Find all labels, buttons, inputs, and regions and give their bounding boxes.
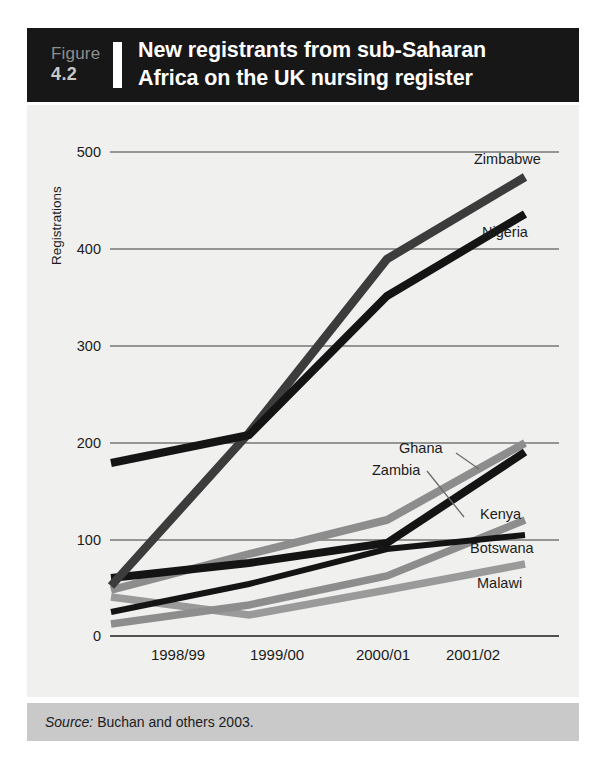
- figure-number: 4.2: [51, 64, 109, 85]
- source-label: Source:: [45, 714, 93, 730]
- figure-container: Figure 4.2 New registrants from sub-Saha…: [0, 0, 606, 777]
- figure-title: New registrants from sub-Saharan Africa …: [138, 37, 486, 92]
- series-label-nigeria: Nigeria: [482, 224, 529, 240]
- series-label-malawi: Malawi: [477, 575, 522, 591]
- series-label-kenya: Kenya: [480, 506, 522, 522]
- y-tick-400: 400: [77, 241, 101, 257]
- y-axis-title: Registrations: [49, 186, 64, 265]
- y-tick-200: 200: [77, 435, 101, 451]
- source-note: Source: Buchan and others 2003.: [27, 714, 254, 730]
- figure-label-word: Figure: [51, 44, 109, 64]
- source-band: Source: Buchan and others 2003.: [27, 703, 579, 741]
- line-chart: Registrations 500 400 300 200 100 0: [27, 105, 579, 697]
- x-tick-labels: 1998/99 1999/00 2000/01 2001/02: [151, 646, 500, 663]
- figure-title-bar: Figure 4.2 New registrants from sub-Saha…: [27, 28, 579, 102]
- series-line-nigeria: [111, 214, 525, 463]
- title-divider-bar: [113, 42, 122, 88]
- source-citation: Buchan and others 2003.: [93, 714, 253, 730]
- series-label-zambia: Zambia: [372, 462, 421, 478]
- y-tick-100: 100: [77, 532, 101, 548]
- x-tick-2001-02: 2001/02: [446, 646, 500, 663]
- y-tick-300: 300: [77, 338, 101, 354]
- leader-line-ghana: [456, 453, 479, 469]
- y-tick-0: 0: [93, 628, 101, 644]
- chart-panel: Registrations 500 400 300 200 100 0: [27, 105, 579, 697]
- series-label-zimbabwe: Zimbabwe: [474, 151, 541, 167]
- x-tick-1998-99: 1998/99: [151, 646, 205, 663]
- x-tick-2000-01: 2000/01: [356, 646, 410, 663]
- series-label-ghana: Ghana: [399, 440, 443, 456]
- x-tick-1999-00: 1999/00: [250, 646, 304, 663]
- series-lines: [111, 177, 525, 624]
- figure-number-block: Figure 4.2: [27, 44, 109, 85]
- y-tick-500: 500: [77, 144, 101, 160]
- y-tick-labels: 500 400 300 200 100 0: [77, 144, 101, 644]
- series-line-zimbabwe: [111, 177, 525, 586]
- series-label-botswana: Botswana: [470, 540, 535, 556]
